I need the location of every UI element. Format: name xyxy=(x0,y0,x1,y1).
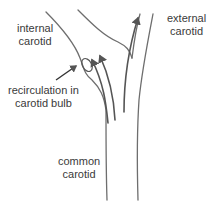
internal-carotid-inner-wall xyxy=(78,10,132,58)
external-carotid-outer-wall xyxy=(137,14,153,200)
label-recirculation: recirculation in carotid bulb xyxy=(8,84,79,110)
label-external-carotid: external carotid xyxy=(167,12,206,38)
label-internal-carotid: internal carotid xyxy=(17,22,53,48)
label-common-carotid: common carotid xyxy=(58,155,100,181)
pointer-arrow xyxy=(56,66,76,80)
recirculation-loop xyxy=(80,57,95,74)
